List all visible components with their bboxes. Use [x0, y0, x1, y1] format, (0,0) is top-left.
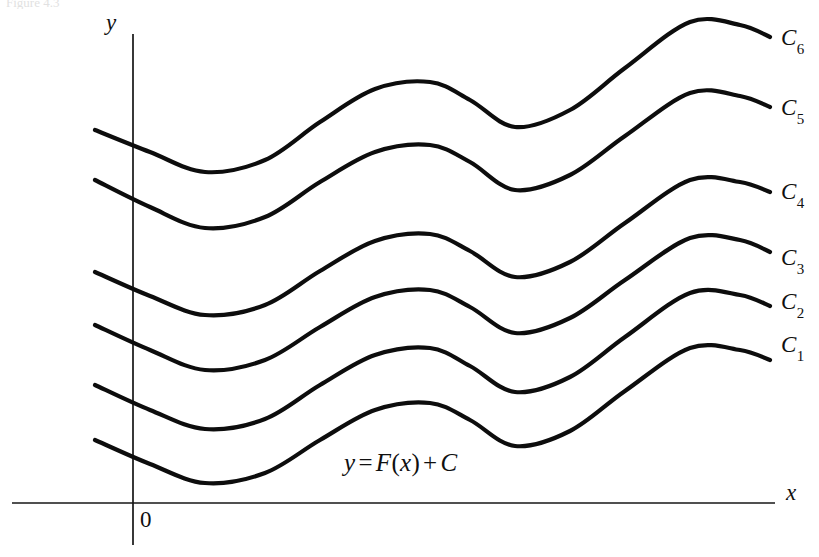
curve-label-base: C	[781, 245, 796, 270]
curve-label-c5: C5	[781, 96, 804, 124]
y-axis-label: y	[106, 11, 116, 34]
x-axis-label: x	[786, 481, 796, 504]
equation-constant: C	[440, 449, 457, 476]
solution-curve-c4	[95, 177, 770, 315]
curve-label-subscript: 5	[797, 111, 805, 127]
solution-curve-c5	[95, 90, 770, 228]
curve-label-subscript: 6	[797, 41, 805, 57]
equation-equals: =	[355, 449, 375, 476]
equation-function-name: F	[376, 449, 392, 476]
equation-plus: +	[420, 449, 440, 476]
curve-label-base: C	[781, 95, 796, 120]
curve-label-subscript: 3	[797, 261, 805, 277]
curve-label-base: C	[781, 289, 796, 314]
curve-label-subscript: 4	[797, 195, 805, 211]
equation-annotation: y=F(x)+C	[344, 450, 457, 475]
equation-close-paren: )	[411, 449, 420, 476]
curve-label-c2: C2	[781, 290, 804, 318]
equation-open-paren: (	[391, 449, 400, 476]
curve-label-c1: C1	[781, 333, 804, 361]
curve-label-subscript: 1	[797, 348, 805, 364]
figure-canvas: Figure 4.3 y x 0 y=F(x)+C C6C5C4C3C2C1	[0, 0, 819, 557]
curve-label-base: C	[781, 332, 796, 357]
curve-label-subscript: 2	[797, 305, 805, 321]
curve-label-c4: C4	[781, 180, 804, 208]
curve-label-base: C	[781, 179, 796, 204]
solution-curves-group	[95, 19, 770, 483]
equation-lhs: y	[344, 449, 355, 476]
curve-label-base: C	[781, 25, 796, 50]
curve-label-c3: C3	[781, 246, 804, 274]
curve-label-c6: C6	[781, 26, 804, 54]
solution-curve-c6	[95, 19, 770, 172]
origin-label: 0	[140, 508, 152, 531]
equation-variable: x	[400, 449, 411, 476]
